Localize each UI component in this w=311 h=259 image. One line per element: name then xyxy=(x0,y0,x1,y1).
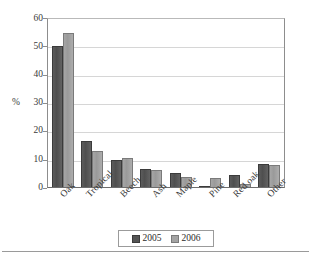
y-tick-label-40: 40 xyxy=(17,70,43,80)
bar-oak-2005 xyxy=(52,46,63,187)
legend-item-2006[interactable]: 2006 xyxy=(171,234,201,244)
y-tick-label-0: 0 xyxy=(17,183,43,193)
bar-oak-2006 xyxy=(63,33,74,187)
page-divider-rule xyxy=(2,251,309,252)
y-tick-label-50: 50 xyxy=(17,42,43,52)
bar-group-maple xyxy=(166,19,196,187)
bar-pine-2005 xyxy=(199,186,210,187)
legend-label-2006: 2006 xyxy=(182,234,201,244)
y-tick-label-30: 30 xyxy=(17,98,43,108)
bar-ash-2005 xyxy=(140,169,151,187)
bar-chart-figure: % 60 50 40 30 20 10 0 xyxy=(0,0,311,259)
y-tick-label-20: 20 xyxy=(17,126,43,136)
bar-group-tropical xyxy=(78,19,108,187)
bar-tropical-2005 xyxy=(81,141,92,187)
bar-group-ash xyxy=(137,19,167,187)
y-tick-label-10: 10 xyxy=(17,155,43,165)
y-tick-mark-0 xyxy=(43,188,47,189)
bar-group-red-oak xyxy=(225,19,255,187)
legend-item-2005[interactable]: 2005 xyxy=(132,234,162,244)
legend-label-2005: 2005 xyxy=(143,234,162,244)
bar-group-other xyxy=(255,19,285,187)
bar-group-beech xyxy=(107,19,137,187)
plot-area xyxy=(47,18,285,188)
y-tick-label-60: 60 xyxy=(17,14,43,24)
legend-swatch-2006-icon xyxy=(171,235,179,243)
bar-group-pine xyxy=(196,19,226,187)
legend-swatch-2005-icon xyxy=(132,235,140,243)
chart-legend: 2005 2006 xyxy=(118,230,214,247)
bar-group-oak xyxy=(48,19,78,187)
